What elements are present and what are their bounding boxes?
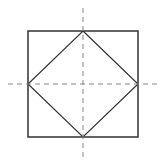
square-diamond-diagram	[0, 0, 165, 166]
